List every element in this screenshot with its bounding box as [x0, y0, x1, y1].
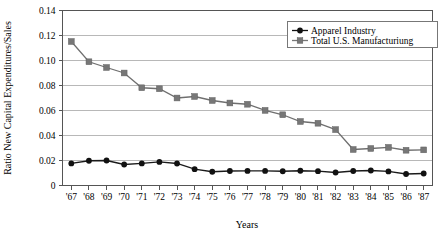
data-point-marker: [333, 170, 339, 176]
legend-marker-square-icon: [297, 38, 303, 44]
x-axis-tick-label: '78: [260, 192, 271, 202]
data-point-marker: [368, 146, 374, 152]
data-point-marker: [68, 160, 74, 166]
data-point-marker: [104, 65, 110, 71]
data-point-marker: [192, 94, 198, 100]
data-point-marker: [121, 70, 127, 76]
y-axis-tick-label: 0.10: [39, 56, 56, 66]
legend-label-apparel-industry: Apparel Industry: [311, 26, 376, 36]
data-point-marker: [157, 86, 163, 92]
y-axis-title: Ratio New Capital Expenditures/Sales: [2, 21, 13, 175]
chart-legend: Apparel Industry Total U.S. Manufacturiu…: [288, 22, 438, 48]
y-tick-marks-group: [59, 11, 63, 186]
x-axis-tick-label: '77: [242, 192, 253, 202]
data-point-marker: [297, 168, 303, 174]
data-point-marker: [245, 101, 251, 107]
data-point-marker: [227, 100, 233, 106]
x-axis-tick-label: '83: [348, 192, 359, 202]
data-point-marker: [421, 171, 427, 177]
data-point-marker: [262, 168, 268, 174]
data-point-marker: [386, 144, 392, 150]
data-point-marker: [245, 168, 251, 174]
data-point-marker: [350, 147, 356, 153]
x-axis-tick-label: '71: [136, 192, 147, 202]
gridlines-group: [63, 36, 433, 161]
x-axis-tick-label: '73: [171, 192, 182, 202]
x-axis-tick-label: '76: [224, 192, 235, 202]
x-axis-tick-label: '86: [400, 192, 411, 202]
x-axis-tick-label: '81: [312, 192, 323, 202]
x-axis-tick-label: '69: [101, 192, 112, 202]
data-point-marker: [297, 119, 303, 125]
data-point-marker: [315, 120, 321, 126]
x-axis-tick-label: '87: [418, 192, 429, 202]
data-point-marker: [403, 171, 409, 177]
x-axis-tick-label: '72: [154, 192, 165, 202]
chart-container: 00.020.040.060.080.100.120.14 '67'68'69'…: [0, 0, 447, 237]
data-point-marker: [403, 147, 409, 153]
data-point-marker: [192, 166, 198, 172]
legend-item-total-us-manufacturing: Total U.S. Manufacturiung: [292, 36, 413, 46]
data-point-marker: [262, 107, 268, 113]
x-axis-tick-label: '70: [119, 192, 130, 202]
data-point-marker: [227, 168, 233, 174]
data-point-marker: [104, 158, 110, 164]
data-point-marker: [174, 161, 180, 167]
y-axis-tick-label: 0.06: [39, 106, 56, 116]
data-point-marker: [421, 147, 427, 153]
data-point-marker: [139, 85, 145, 91]
y-axis-tick-label: 0.04: [39, 131, 56, 141]
x-axis-tick-label: '82: [330, 192, 341, 202]
y-axis-tick-label: 0.08: [39, 81, 56, 91]
data-point-marker: [139, 160, 145, 166]
x-axis-tick-label: '79: [277, 192, 288, 202]
data-point-marker: [280, 112, 286, 118]
data-point-marker: [333, 127, 339, 133]
data-point-marker: [174, 95, 180, 101]
y-axis-tick-label: 0.02: [39, 156, 56, 166]
data-point-marker: [280, 168, 286, 174]
capital-expenditures-ratio-line-chart: 00.020.040.060.080.100.120.14 '67'68'69'…: [0, 0, 447, 237]
x-axis-tick-label: '75: [207, 192, 218, 202]
x-axis-tick-label: '84: [365, 192, 376, 202]
x-axis-tick-label: '85: [383, 192, 394, 202]
data-point-marker: [157, 159, 163, 165]
x-axis-tick-labels-group: '67'68'69'70'71'72'73'74'75'76'77'78'79'…: [66, 192, 430, 202]
x-tick-marks-group: [71, 186, 423, 190]
data-point-marker: [209, 98, 215, 104]
data-point-marker: [386, 168, 392, 174]
data-point-marker: [315, 168, 321, 174]
x-axis-title: Years: [236, 219, 258, 230]
data-point-marker: [368, 168, 374, 174]
y-axis-tick-labels-group: 00.020.040.060.080.100.120.14: [39, 6, 56, 191]
y-axis-tick-label: 0.12: [39, 31, 56, 41]
data-point-marker: [86, 158, 92, 164]
data-series-group: [68, 39, 426, 177]
legend-marker-circle-icon: [297, 28, 303, 34]
y-axis-tick-label: 0.14: [39, 6, 56, 16]
data-point-marker: [121, 162, 127, 168]
series-total-u-s-manufacturiung: [68, 39, 426, 154]
data-point-marker: [86, 59, 92, 65]
data-point-marker: [68, 39, 74, 45]
legend-label-total-us-manufacturing: Total U.S. Manufacturiung: [311, 36, 413, 46]
series-line-total-u-s-manufacturiung: [71, 42, 423, 151]
x-axis-tick-label: '80: [295, 192, 306, 202]
y-axis-tick-label: 0: [51, 181, 56, 191]
x-axis-tick-label: '68: [83, 192, 94, 202]
x-axis-tick-label: '74: [189, 192, 200, 202]
data-point-marker: [209, 169, 215, 175]
x-axis-tick-label: '67: [66, 192, 77, 202]
data-point-marker: [350, 168, 356, 174]
